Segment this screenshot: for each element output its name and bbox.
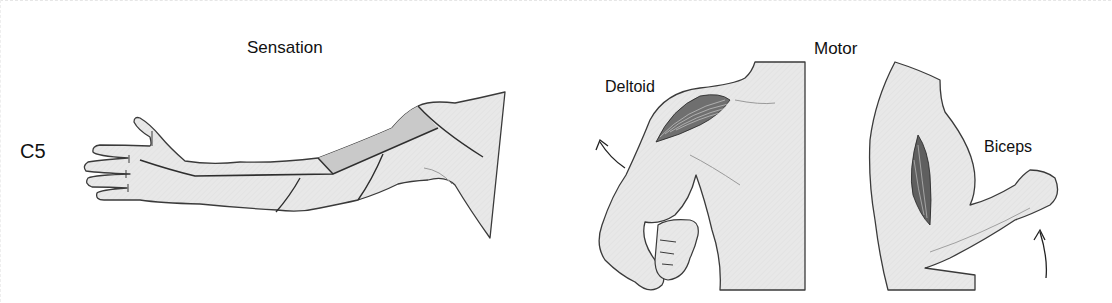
biceps-flexion-arrow (1040, 232, 1046, 278)
deltoid-fist (655, 220, 698, 280)
biceps-torso-skin (870, 62, 1058, 290)
deltoid-illustration (596, 62, 805, 290)
biceps-arrowhead-icon (1034, 230, 1045, 240)
illustration-canvas (0, 0, 1112, 303)
biceps-illustration (870, 62, 1058, 290)
arm-silhouette (84, 92, 505, 238)
dermatome-arm-illustration (84, 92, 505, 238)
deltoid-abduction-arrow (600, 142, 625, 168)
